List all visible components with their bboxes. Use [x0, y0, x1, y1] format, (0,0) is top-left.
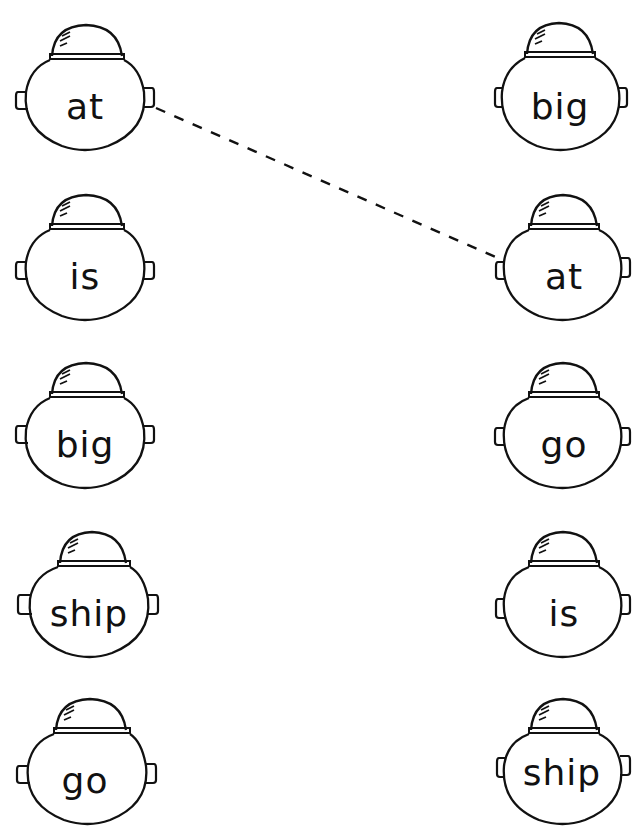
word-head-right-2[interactable]: at — [487, 190, 636, 330]
word-label: at — [509, 252, 619, 302]
word-label: go — [509, 420, 619, 470]
word-head-left-5[interactable]: go — [10, 694, 160, 830]
word-head-left-2[interactable]: is — [10, 190, 160, 330]
word-label: ship — [507, 748, 617, 798]
word-head-left-4[interactable]: ship — [10, 527, 160, 667]
right-word-column: big at go — [487, 0, 636, 812]
word-label: big — [505, 82, 615, 132]
word-label: ship — [34, 589, 144, 639]
word-head-right-1[interactable]: big — [487, 20, 636, 160]
word-head-left-1[interactable]: at — [10, 20, 160, 160]
word-head-right-3[interactable]: go — [487, 358, 636, 498]
word-head-left-3[interactable]: big — [10, 358, 160, 498]
word-label: big — [30, 420, 140, 470]
word-label: at — [30, 82, 140, 132]
word-label: is — [30, 252, 140, 302]
word-head-right-4[interactable]: is — [487, 527, 636, 667]
left-word-column: at is big — [10, 0, 160, 812]
word-head-right-5[interactable]: ship — [487, 694, 636, 830]
word-label: go — [30, 756, 140, 806]
word-label: is — [509, 589, 619, 639]
